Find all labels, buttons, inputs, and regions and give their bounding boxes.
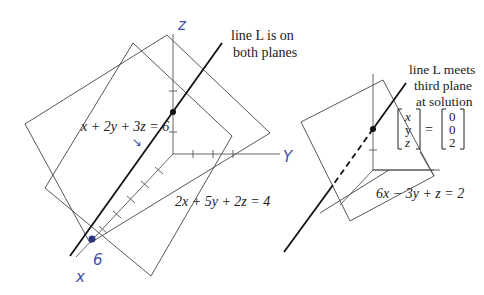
vector-lhs-z: z <box>404 135 410 150</box>
right-figure: line L meets third plane at solution x y… <box>284 62 475 252</box>
diagram-canvas: z Y x 6 ↘ x + 2y + 3z = 6 2x + 5y + 2z =… <box>0 0 484 295</box>
caption-left-line2: both planes <box>233 45 297 60</box>
caption-right-line2: third plane <box>414 78 472 93</box>
vector-equals: = <box>425 122 433 137</box>
plane-1-equation: x + 2y + 3z = 6 <box>80 119 169 134</box>
solution-point <box>370 126 376 132</box>
plane-2-equation: 2x + 5y + 2z = 4 <box>175 194 270 209</box>
solution-vector: x y z = 0 0 2 <box>398 109 464 150</box>
plane-3-equation: 6x − 3y + z = 2 <box>376 186 464 201</box>
left-figure: z Y x 6 ↘ x + 2y + 3z = 6 2x + 5y + 2z =… <box>25 16 297 286</box>
caption-left-line1: line L is on <box>231 28 294 43</box>
y-axis-label: Y <box>283 148 294 166</box>
x-intercept-label: 6 <box>93 251 103 269</box>
z-axis-label: z <box>177 16 187 34</box>
plane-1 <box>25 35 270 243</box>
x-intercept-dot <box>89 236 96 243</box>
vector-rhs-2: 2 <box>449 135 456 150</box>
intersection-point <box>170 109 176 115</box>
caption-right-line1: line L meets <box>409 62 475 77</box>
caption-right-line3: at solution <box>416 94 473 109</box>
arrow-annotation: ↘ <box>132 135 142 149</box>
line-L <box>70 43 222 256</box>
x-axis-label: x <box>75 268 85 286</box>
